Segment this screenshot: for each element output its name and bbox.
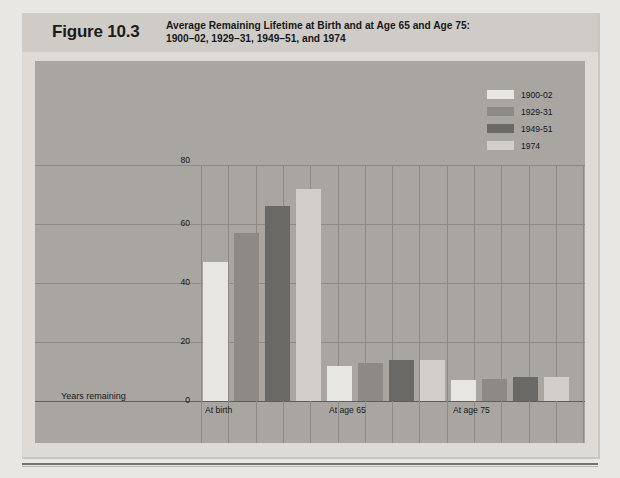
legend-swatch-1900-02: [487, 90, 514, 99]
bar-1900-02-at-age-65: [327, 366, 352, 401]
y-axis-tick: 40: [160, 277, 190, 287]
bar-1929-31-at-age-75: [482, 379, 507, 401]
y-axis-tick: 80: [160, 155, 190, 165]
grid-line-vertical: [338, 165, 339, 443]
legend-swatch-1974: [487, 141, 514, 150]
figure-bottom-rule: [22, 463, 598, 465]
legend-label-1900-02: 1900-02: [521, 90, 553, 100]
figure-number: Figure 10.3: [52, 22, 140, 42]
grid-line-vertical: [392, 165, 393, 443]
y-axis-tick: 20: [160, 336, 190, 346]
figure-container: Figure 10.3 Average Remaining Lifetime a…: [22, 13, 598, 457]
legend-item: 1949-51: [487, 122, 553, 135]
legend-swatch-1929-31: [487, 107, 514, 116]
grid-line-vertical: [501, 165, 502, 443]
chart-panel: 1900-02 1929-31 1949-51 1974 Years remai…: [35, 61, 585, 443]
figure-title-line-2: 1900–02, 1929–31, 1949–51, and 1974: [166, 33, 346, 44]
legend-label-1949-51: 1949-51: [521, 124, 553, 134]
y-axis-tick: 60: [160, 218, 190, 228]
grid-line-vertical: [365, 165, 366, 443]
legend-item: 1900-02: [487, 88, 553, 101]
x-axis-tick: At birth: [205, 405, 232, 415]
bar-1949-51-at-birth: [265, 206, 290, 401]
grid-line-vertical: [228, 165, 229, 443]
plot-grid-zone: [35, 165, 585, 443]
x-axis-tick: At age 65: [329, 405, 366, 415]
bar-1929-31-at-age-65: [358, 363, 383, 401]
legend-label-1974: 1974: [521, 141, 540, 151]
grid-line-vertical: [419, 165, 420, 443]
bar-1929-31-at-birth: [234, 233, 259, 401]
figure-title: Average Remaining Lifetime at Birth and …: [166, 20, 566, 45]
bar-1949-51-at-age-65: [389, 360, 414, 401]
grid-line-vertical: [201, 165, 202, 443]
legend-label-1929-31: 1929-31: [521, 107, 553, 117]
y-axis-tick: 0: [160, 395, 190, 405]
bar-1974-at-age-65: [420, 360, 445, 401]
y-axis-label: Years remaining: [61, 391, 126, 401]
figure-title-line-1: Average Remaining Lifetime at Birth and …: [166, 20, 470, 31]
legend-item: 1929-31: [487, 105, 553, 118]
bar-1949-51-at-age-75: [513, 377, 538, 401]
grid-line-vertical: [474, 165, 475, 443]
legend-swatch-1949-51: [487, 124, 514, 133]
bar-1974-at-birth: [296, 189, 321, 401]
legend-item: 1974: [487, 139, 553, 152]
bar-1900-02-at-birth: [203, 262, 228, 401]
grid-line-vertical: [583, 165, 584, 443]
grid-line-vertical: [529, 165, 530, 443]
figure-bottom-rule-highlight: [22, 466, 598, 467]
bar-1974-at-age-75: [544, 377, 569, 401]
grid-line-vertical: [447, 165, 448, 443]
x-axis-tick: At age 75: [453, 405, 490, 415]
chart-legend: 1900-02 1929-31 1949-51 1974: [487, 88, 553, 156]
grid-line-vertical: [556, 165, 557, 443]
bar-1900-02-at-age-75: [451, 380, 476, 401]
